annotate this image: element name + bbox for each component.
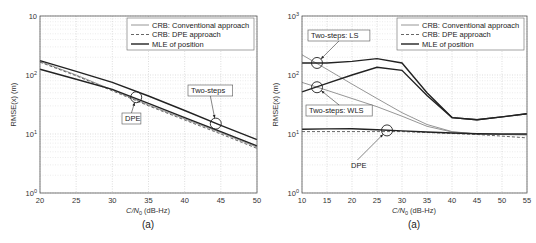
y-tick-label: 101 — [288, 129, 299, 139]
panel-label: (a) — [142, 219, 154, 230]
y-tick-label: 102 — [26, 70, 37, 80]
x-tick-label: 50 — [253, 196, 261, 205]
arrowhead-icon — [132, 102, 135, 105]
series-line — [302, 129, 527, 134]
chart-panel-right: 10152025303540455055100101102103C/N0 (dB… — [271, 11, 531, 230]
x-tick-label: 30 — [108, 196, 116, 205]
x-tick-label: 35 — [144, 196, 152, 205]
x-tick-label: 30 — [398, 196, 406, 205]
legend: CRB: Conventional approachCRB: DPE appro… — [397, 18, 524, 50]
x-tick-label: 20 — [348, 196, 356, 205]
callout-label: DPE — [125, 114, 140, 123]
y-tick-label: 101 — [26, 129, 37, 139]
x-tick-label: 10 — [298, 196, 306, 205]
x-tick-label: 25 — [373, 196, 381, 205]
callout-label: Two-steps — [191, 86, 225, 95]
panel-label: (a) — [408, 219, 420, 230]
x-tick-label: 35 — [423, 196, 431, 205]
arrowhead-icon — [213, 115, 216, 118]
series-line — [40, 61, 257, 140]
chart-panel-left: 2025303540455010010110210C/N0 (dB-Hz)RMS… — [9, 12, 261, 230]
x-tick-label: 25 — [72, 196, 80, 205]
y-axis-label: RMSE(x) (m) — [9, 82, 18, 126]
x-tick-label: 15 — [323, 196, 331, 205]
x-tick-label: 40 — [180, 196, 188, 205]
y-axis-label: RMSE(x) (m) — [271, 82, 280, 126]
legend: CRB: Conventional approachCRB: DPE appro… — [127, 18, 254, 50]
x-tick-label: 20 — [36, 196, 44, 205]
callout-label: DPE — [351, 161, 366, 170]
callout-label: Two-steps: WLS — [309, 106, 364, 115]
x-axis-label: C/N0 (dB-Hz) — [126, 206, 170, 216]
legend-label: CRB: Conventional approach — [152, 21, 249, 30]
x-tick-label: 45 — [217, 196, 225, 205]
x-axis-label: C/N0 (dB-Hz) — [392, 206, 436, 216]
legend-label: MLE of position — [152, 40, 204, 49]
y-tick-label: 10 — [29, 12, 37, 21]
x-tick-label: 55 — [523, 196, 531, 205]
series-line — [302, 55, 527, 135]
legend-label: MLE of position — [422, 40, 474, 49]
legend-label: CRB: Conventional approach — [422, 21, 519, 30]
y-tick-label: 103 — [288, 11, 299, 21]
legend-label: CRB: DPE approach — [152, 30, 221, 39]
y-tick-label: 102 — [288, 70, 299, 80]
figure: 2025303540455010010110210C/N0 (dB-Hz)RMS… — [0, 0, 536, 243]
callout-arrow — [210, 96, 214, 118]
x-tick-label: 40 — [448, 196, 456, 205]
legend-label: CRB: DPE approach — [422, 30, 491, 39]
callout-label: Two-steps: LS — [311, 31, 359, 40]
x-tick-label: 45 — [473, 196, 481, 205]
x-tick-label: 50 — [498, 196, 506, 205]
callout-arrow — [321, 41, 339, 59]
callout-arrow — [357, 134, 383, 160]
